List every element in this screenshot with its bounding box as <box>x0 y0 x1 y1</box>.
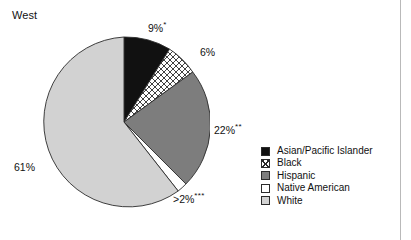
legend-item-native-american: Native American <box>261 182 393 194</box>
legend-item-hispanic: Hispanic <box>261 170 393 182</box>
pie-label-black: 6% <box>200 44 215 58</box>
pie-label-white: 61% <box>14 159 35 173</box>
legend-item-asian-pacific-islander: Asian/Pacific Islander <box>261 145 393 157</box>
chart-title: West <box>12 9 37 21</box>
legend-label-white: White <box>277 195 303 207</box>
pie-label-hispanic-mark: ** <box>235 122 242 131</box>
legend-label-hispanic: Hispanic <box>277 170 315 182</box>
pie-label-native-american-value: >2% <box>173 193 194 205</box>
legend-swatch-white <box>261 196 270 205</box>
figure-right-border <box>400 0 401 240</box>
pie-label-hispanic: 22%** <box>214 122 242 136</box>
pie-svg <box>38 36 210 208</box>
pie-graphic <box>38 36 210 208</box>
pie-label-white-value: 61% <box>14 161 35 173</box>
legend-swatch-hispanic <box>261 171 270 180</box>
legend-swatch-native-american <box>261 184 270 193</box>
pie-label-asian-pacific-islander-value: 9% <box>148 22 163 34</box>
legend-label-black: Black <box>277 157 301 169</box>
pie-label-asian-pacific-islander: 9%* <box>148 20 167 34</box>
legend: Asian/Pacific Islander Black Hispanic Na… <box>255 141 395 211</box>
legend-label-native-american: Native American <box>277 182 350 194</box>
pie-label-hispanic-value: 22% <box>214 124 235 136</box>
legend-swatch-asian-pacific-islander <box>261 147 270 156</box>
pie-label-black-value: 6% <box>200 46 215 58</box>
pie-label-native-american: >2%*** <box>173 191 205 205</box>
legend-item-white: White <box>261 195 393 207</box>
legend-item-black: Black <box>261 157 393 169</box>
pie-label-native-american-mark: *** <box>194 191 204 200</box>
legend-swatch-black <box>261 159 270 168</box>
pie-chart-figure: West 9%* 6% 22%** >2%*** <box>0 0 411 240</box>
pie-label-asian-pacific-islander-mark: * <box>163 20 166 29</box>
legend-label-asian-pacific-islander: Asian/Pacific Islander <box>277 145 373 157</box>
